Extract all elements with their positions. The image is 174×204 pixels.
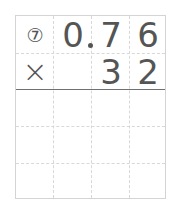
- multiplicand-digit: 7: [92, 16, 130, 53]
- problem-number: ⑦: [16, 16, 54, 53]
- grid-row-line: [16, 126, 165, 127]
- grid-row-line: [16, 163, 165, 164]
- multiply-operator: ×: [16, 53, 54, 90]
- multiplicand-digit: 6: [129, 16, 167, 53]
- multiplier-digit: 2: [129, 53, 167, 90]
- multiplicand-digit: 0: [54, 16, 92, 53]
- calculation-grid: ⑦ 0 7 6 × 3 2: [15, 15, 166, 199]
- multiplier-digit: 3: [92, 53, 130, 90]
- decimal-point: [88, 43, 93, 48]
